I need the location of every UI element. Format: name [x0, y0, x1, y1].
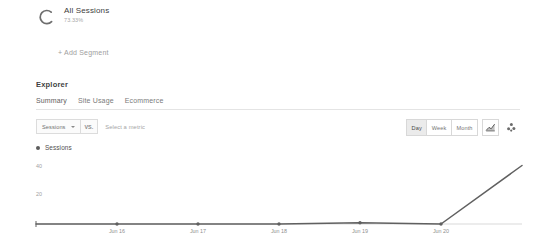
donut-arc-icon [36, 7, 56, 27]
data-point[interactable] [196, 222, 199, 225]
segment-percent: 73.33% [64, 17, 109, 23]
data-point[interactable] [439, 222, 442, 225]
x-tick-label: Jun 17 [190, 228, 206, 234]
primary-metric-dropdown[interactable]: Sessions [36, 119, 81, 134]
x-tick-label: Jun 16 [109, 228, 125, 234]
page-title: Explorer [36, 80, 68, 89]
view-controls: Day Week Month [406, 119, 520, 136]
tab-summary[interactable]: Summary [36, 97, 67, 104]
granularity-month-button[interactable]: Month [452, 120, 477, 135]
vs-label: VS. [81, 119, 99, 134]
x-tick-label: Jun 20 [433, 228, 449, 234]
y-axis-ticks: 40 20 [36, 163, 42, 197]
legend-color-swatch [36, 146, 40, 150]
explorer-tabs: Summary Site Usage Ecommerce [36, 97, 520, 110]
tab-ecommerce[interactable]: Ecommerce [125, 97, 164, 104]
primary-metric-label: Sessions [42, 124, 66, 130]
chart-legend: Sessions [36, 144, 72, 151]
chart-controls-row: Sessions VS. Select a metric Day Week Mo… [36, 119, 520, 137]
segment-selector[interactable]: All Sessions 73.33% [36, 6, 109, 27]
granularity-week-button[interactable]: Week [427, 120, 452, 135]
data-point[interactable] [115, 222, 118, 225]
legend-item-sessions: Sessions [45, 144, 72, 151]
x-axis-tick-labels: Jun 16Jun 17Jun 18Jun 19Jun 20 [109, 228, 449, 234]
tab-site-usage[interactable]: Site Usage [78, 97, 114, 104]
scatter-plot-icon[interactable] [503, 119, 520, 136]
line-chart-icon[interactable] [482, 119, 499, 136]
x-tick-label: Jun 18 [271, 228, 287, 234]
sessions-line-chart[interactable]: 40 20 Jun 16Jun 17Jun 18Jun 19Jun 20 [0, 155, 550, 245]
series-line-sessions [36, 166, 522, 225]
granularity-button-group: Day Week Month [406, 119, 478, 136]
secondary-metric-dropdown[interactable]: Select a metric [105, 119, 145, 134]
chevron-down-icon [71, 126, 75, 128]
data-point[interactable] [358, 221, 361, 224]
y-tick-label-20: 20 [36, 191, 42, 197]
x-tick-label: Jun 19 [352, 228, 368, 234]
segment-name: All Sessions [64, 6, 109, 15]
y-tick-label-40: 40 [36, 163, 42, 169]
metric-selector-group: Sessions VS. Select a metric [36, 119, 145, 134]
granularity-day-button[interactable]: Day [407, 120, 427, 135]
data-point[interactable] [277, 222, 280, 225]
chart-canvas: 40 20 Jun 16Jun 17Jun 18Jun 19Jun 20 [0, 155, 550, 245]
add-segment-button[interactable]: + Add Segment [58, 49, 109, 56]
